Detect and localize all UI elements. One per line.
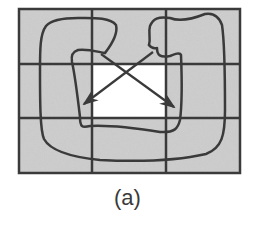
- center-cell-highlight: [93, 65, 165, 117]
- figure-caption: (a): [0, 185, 255, 211]
